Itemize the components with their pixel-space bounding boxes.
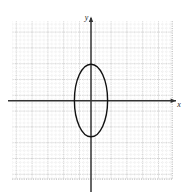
graph-figure: x y [0,0,185,196]
x-axis-arrowhead [171,99,176,103]
y-axis-label: y [84,13,89,22]
y-axis-arrowhead [89,17,93,22]
coordinate-plane: x y [0,0,185,196]
x-axis-label: x [176,100,181,109]
